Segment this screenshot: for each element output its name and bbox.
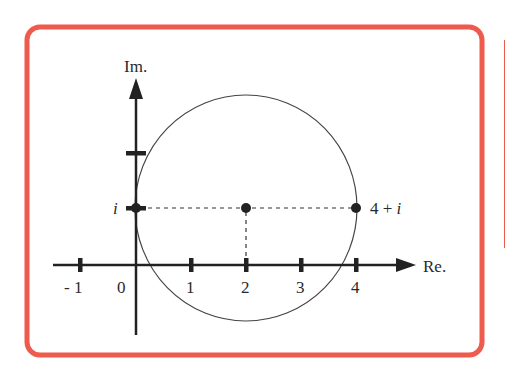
x-tick-label-1: 1	[186, 278, 195, 297]
real-axis	[53, 258, 416, 272]
point-label-4-plus-i-imag: i	[397, 199, 402, 218]
x-tick-label-3: 3	[296, 278, 305, 297]
x-tick-label-neg1: - 1	[64, 278, 82, 297]
x-tick-label-4: 4	[351, 278, 360, 297]
real-axis-arrow-icon	[396, 258, 416, 272]
y-axis-label: Im.	[124, 57, 147, 76]
x-tick-label-0: 0	[117, 278, 126, 297]
imaginary-axis-arrow-icon	[129, 78, 143, 99]
x-axis-label: Re.	[423, 257, 446, 276]
point-center	[241, 203, 251, 213]
diagram-frame	[27, 27, 482, 355]
point-4-plus-i	[351, 203, 361, 213]
point-label-4-plus-i: 4 + i	[370, 199, 402, 218]
point-label-i: i	[113, 199, 118, 218]
x-tick-label-2: 2	[241, 278, 250, 297]
point-i	[131, 203, 141, 213]
point-label-4-plus-i-text: 4 +	[370, 199, 397, 218]
